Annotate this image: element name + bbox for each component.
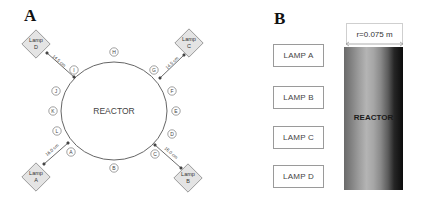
svg-text:Lamp: Lamp [182, 36, 196, 42]
marker-c: C [151, 150, 159, 158]
marker-b: B [110, 164, 118, 172]
lamp-a-label: LAMP A [284, 51, 314, 60]
lamp-c-diamond: Lamp C [175, 29, 203, 57]
marker-i: I [70, 66, 78, 74]
marker-e: E [172, 107, 180, 115]
svg-text:C: C [187, 43, 191, 49]
marker-g: G [150, 66, 158, 74]
lamp-c-label: LAMP C [283, 133, 314, 142]
panel-a: A REACTOR 14.5 cm 14.5 cm 16.0 cm [0, 0, 212, 200]
panel-b: B LAMP A LAMP B LAMP C LAMP D r=0.075 m … [212, 0, 424, 200]
marker-j: J [52, 87, 60, 95]
reactor-label: REACTOR [93, 106, 134, 116]
marker-d: D [168, 130, 176, 138]
panel-b-letter: B [274, 9, 285, 29]
svg-text:A: A [34, 177, 38, 183]
lamp-b-diamond: Lamp B [174, 164, 202, 192]
radius-dimension-label: r=0.075 m [356, 30, 392, 39]
svg-text:D: D [170, 131, 174, 137]
reactor-top-view-diagram: REACTOR 14.5 cm 14.5 cm 16.0 cm 16.0 cm [0, 0, 212, 200]
marker-a: A [67, 148, 75, 156]
distance-arrow-lamp-c [159, 54, 185, 79]
svg-text:G: G [152, 67, 156, 73]
svg-text:L: L [56, 128, 59, 134]
reactor-cylinder: REACTOR [344, 47, 403, 190]
lamp-a-label-box: LAMP A [273, 44, 324, 67]
marker-l: L [53, 127, 61, 135]
lamp-b-label: LAMP B [283, 93, 313, 102]
svg-text:H: H [112, 49, 116, 55]
marker-h: H [110, 48, 118, 56]
svg-text:C: C [153, 151, 157, 157]
svg-text:I: I [73, 67, 74, 73]
marker-k: K [49, 107, 57, 115]
distance-label-lamp-c: 14.5 cm [164, 55, 179, 70]
lamp-b-label-box: LAMP B [273, 86, 324, 109]
svg-text:Lamp: Lamp [181, 171, 195, 177]
lamp-a-diamond: Lamp A [22, 163, 50, 191]
lamp-d-label: LAMP D [283, 172, 314, 181]
reactor-cylinder-label: REACTOR [344, 113, 403, 122]
distance-label-lamp-d: 14.5 cm [51, 54, 66, 69]
distance-label-lamp-a: 16.0 cm [44, 143, 59, 158]
svg-text:B: B [186, 178, 190, 184]
lamp-d-label-box: LAMP D [273, 165, 324, 188]
lamp-c-label-box: LAMP C [273, 126, 324, 149]
svg-text:F: F [170, 88, 173, 94]
svg-text:D: D [34, 44, 38, 50]
svg-text:Lamp: Lamp [29, 37, 43, 43]
radius-dimension: r=0.075 m [346, 23, 403, 44]
distance-label-lamp-b: 16.0 cm [163, 146, 178, 161]
svg-text:Lamp: Lamp [29, 170, 43, 176]
marker-f: F [168, 87, 176, 95]
